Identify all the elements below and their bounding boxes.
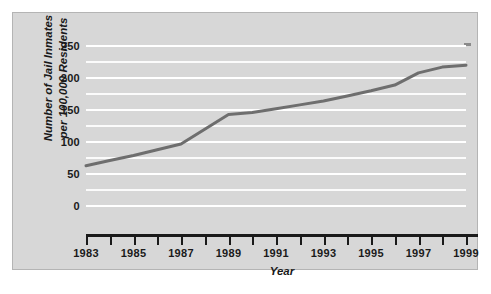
x-tick-label-1993: 1993 bbox=[304, 247, 344, 259]
plot-area bbox=[86, 46, 466, 206]
x-tick-1996 bbox=[395, 237, 397, 245]
x-tick-1988 bbox=[205, 237, 207, 245]
x-tick-1986 bbox=[157, 237, 159, 245]
x-tick-1987 bbox=[181, 237, 183, 245]
y-tick-label-150: 150 bbox=[40, 104, 80, 116]
y-tick-label-0: 0 bbox=[40, 200, 80, 212]
x-axis-title: Year bbox=[86, 265, 478, 277]
data-line-series bbox=[86, 46, 466, 206]
x-tick-label-1987: 1987 bbox=[161, 247, 201, 259]
x-tick-1993 bbox=[324, 237, 326, 245]
x-tick-label-1997: 1997 bbox=[399, 247, 439, 259]
x-tick-label-1995: 1995 bbox=[351, 247, 391, 259]
x-tick-label-1991: 1991 bbox=[256, 247, 296, 259]
y-axis-tick-labels: 250200150100500 bbox=[30, 46, 80, 206]
x-tick-1997 bbox=[419, 237, 421, 245]
x-tick-1984 bbox=[110, 237, 112, 245]
x-tick-1989 bbox=[229, 237, 231, 245]
x-tick-label-1989: 1989 bbox=[209, 247, 249, 259]
x-axis-ticks bbox=[86, 237, 478, 245]
x-tick-label-1985: 1985 bbox=[114, 247, 154, 259]
x-tick-1994 bbox=[347, 237, 349, 245]
x-tick-1992 bbox=[300, 237, 302, 245]
x-tick-label-1999: 1999 bbox=[446, 247, 486, 259]
x-tick-1991 bbox=[276, 237, 278, 245]
x-tick-1985 bbox=[134, 237, 136, 245]
chart-figure: Number of Jail Inmates per 100,000 Resid… bbox=[12, 12, 478, 270]
jail-inmates-line bbox=[86, 65, 466, 165]
x-tick-1983 bbox=[86, 237, 88, 245]
x-tick-1998 bbox=[442, 237, 444, 245]
x-tick-1995 bbox=[371, 237, 373, 245]
x-tick-label-1983: 1983 bbox=[66, 247, 106, 259]
y-tick-label-50: 50 bbox=[40, 168, 80, 180]
x-tick-1999 bbox=[466, 237, 468, 245]
y-tick-label-200: 200 bbox=[40, 72, 80, 84]
x-axis-tick-labels: 198319851987198919911993199519971999 bbox=[86, 247, 478, 263]
y-tick-label-250: 250 bbox=[40, 40, 80, 52]
y-tick-label-100: 100 bbox=[40, 136, 80, 148]
x-tick-1990 bbox=[252, 237, 254, 245]
